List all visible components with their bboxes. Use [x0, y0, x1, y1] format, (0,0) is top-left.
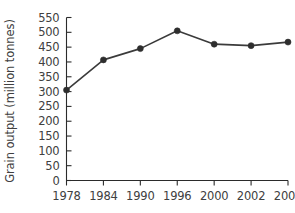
x-tick-label: 1996	[163, 189, 191, 203]
x-tick-label: 2000	[200, 189, 228, 203]
x-tick-label: 2004	[274, 189, 295, 203]
y-tick-label: 200	[38, 114, 59, 128]
chart-axes	[67, 18, 289, 181]
chart-plot-area: 050100150200250300350400450500550 197819…	[0, 0, 295, 213]
y-tick-label: 450	[38, 40, 59, 54]
data-point-marker	[64, 87, 70, 93]
y-tick-label: 550	[38, 11, 59, 25]
y-tick-label: 350	[38, 70, 59, 84]
data-point-marker	[211, 41, 217, 47]
x-axis-tick-marks	[67, 181, 289, 186]
y-tick-label: 0	[52, 174, 59, 188]
y-tick-label: 100	[38, 144, 59, 158]
data-point-marker	[285, 39, 291, 45]
y-tick-label: 300	[38, 85, 59, 99]
data-point-marker	[100, 57, 106, 63]
y-axis-tick-marks	[67, 18, 72, 181]
y-tick-label: 50	[45, 159, 59, 173]
data-point-marker	[248, 43, 254, 49]
y-tick-label: 150	[38, 129, 59, 143]
grain-output-line-chart: Grain output (million tonnes) 0501001502…	[0, 0, 295, 213]
y-tick-label: 400	[38, 55, 59, 69]
y-axis-tick-labels: 050100150200250300350400450500550	[38, 11, 59, 188]
grain-output-data-markers	[64, 28, 292, 93]
data-point-marker	[137, 46, 143, 52]
x-tick-label: 2002	[237, 189, 265, 203]
y-tick-label: 250	[38, 99, 59, 113]
data-point-marker	[174, 28, 180, 34]
y-tick-label: 500	[38, 25, 59, 39]
x-tick-label: 1978	[52, 189, 80, 203]
x-axis-tick-labels: 1978198419901996200020022004	[52, 189, 295, 203]
grain-output-series-line	[67, 31, 289, 90]
x-tick-label: 1984	[89, 189, 117, 203]
x-tick-label: 1990	[126, 189, 154, 203]
